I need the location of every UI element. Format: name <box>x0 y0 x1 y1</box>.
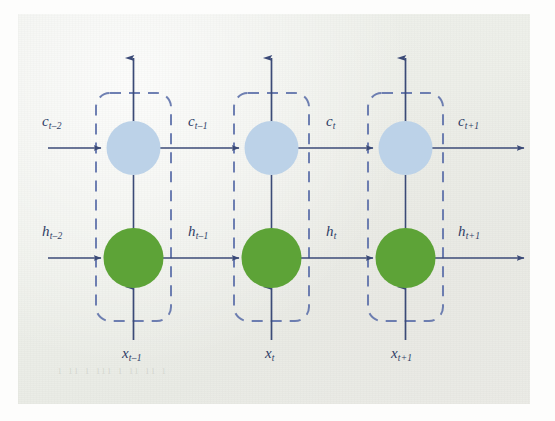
label-c-t-minus-1-base: c <box>188 113 195 129</box>
label-h-t-minus-2-sub: t–2 <box>50 231 63 241</box>
diagram-vector-layer <box>0 0 555 421</box>
label-h-t-plus-1-base: h <box>458 223 466 239</box>
label-h-t-minus-1-sub: t–1 <box>196 231 209 241</box>
figure-canvas: ı ıı ı ııı ı ıı ıı ı <box>0 0 555 421</box>
label-c-t-minus-1-sub: t–1 <box>195 121 208 131</box>
label-h-t-minus-2: ht–2 <box>42 223 62 240</box>
label-c-t: ct <box>326 113 336 130</box>
label-c-t-sub: t <box>333 121 336 131</box>
label-h-t-plus-1-sub: t+1 <box>466 231 480 241</box>
label-c-t-plus-1-sub: t+1 <box>465 121 479 131</box>
intra-cell-connectors <box>134 58 406 340</box>
hidden-state-node-0[interactable] <box>104 228 164 288</box>
label-h-t-minus-1-base: h <box>188 223 196 239</box>
label-x-t-sub: t <box>272 353 275 363</box>
cell-state-node-0[interactable] <box>107 121 161 175</box>
cell-state-node-1[interactable] <box>245 121 299 175</box>
hidden-state-node-1[interactable] <box>242 228 302 288</box>
cell-state-node-2[interactable] <box>379 121 433 175</box>
label-x-t-minus-1-base: x <box>122 345 129 361</box>
label-c-t-minus-1: ct–1 <box>188 113 208 130</box>
label-x-t-minus-1-sub: t–1 <box>129 353 142 363</box>
cell-state-nodes <box>107 121 433 175</box>
label-h-t-plus-1: ht+1 <box>458 223 480 240</box>
label-c-t-base: c <box>326 113 333 129</box>
label-c-t-minus-2: ct–2 <box>42 113 62 130</box>
label-x-t-base: x <box>265 345 272 361</box>
label-h-t-sub: t <box>334 231 337 241</box>
label-x-t-minus-1: xt–1 <box>122 345 142 362</box>
label-h-t-minus-1: ht–1 <box>188 223 208 240</box>
label-c-t-minus-2-sub: t–2 <box>49 121 62 131</box>
label-h-t-base: h <box>326 223 334 239</box>
label-c-t-plus-1-base: c <box>458 113 465 129</box>
label-h-t-minus-2-base: h <box>42 223 50 239</box>
label-x-t-plus-1-sub: t+1 <box>398 353 412 363</box>
label-c-t-minus-2-base: c <box>42 113 49 129</box>
label-x-t: xt <box>265 345 275 362</box>
hidden-state-node-2[interactable] <box>376 228 436 288</box>
label-c-t-plus-1: ct+1 <box>458 113 479 130</box>
hidden-state-nodes <box>104 228 436 288</box>
label-x-t-plus-1: xt+1 <box>391 345 412 362</box>
label-x-t-plus-1-base: x <box>391 345 398 361</box>
label-h-t: ht <box>326 223 337 240</box>
